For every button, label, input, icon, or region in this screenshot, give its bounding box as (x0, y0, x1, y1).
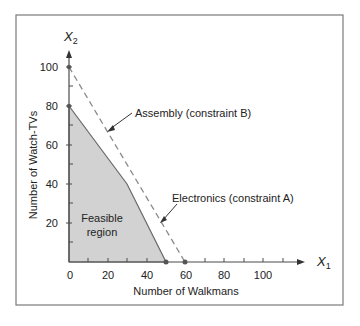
y-axis-title: Number of Watch-TVs (27, 110, 39, 219)
svg-text:60: 60 (46, 139, 58, 151)
svg-text:80: 80 (218, 269, 230, 281)
svg-text:40: 40 (141, 269, 153, 281)
chart-figure: 20 40 60 80 100 0 20 40 60 80 100 Number… (0, 0, 360, 326)
y-axis-arrow-icon (66, 50, 72, 58)
svg-text:40: 40 (46, 178, 58, 190)
x-variable-label: X1 (316, 254, 331, 271)
svg-text:100: 100 (40, 61, 58, 73)
svg-text:0: 0 (67, 269, 73, 281)
point-60-0 (183, 260, 188, 265)
y-tick-labels: 20 40 60 80 100 (40, 61, 58, 229)
electronics-label: Electronics (constraint A) (172, 192, 294, 204)
point-0-100 (67, 65, 71, 69)
x-axis-arrow-icon (297, 259, 305, 265)
feasible-label-line1: Feasible (81, 212, 123, 224)
feasible-region (69, 106, 166, 262)
svg-text:20: 20 (102, 269, 114, 281)
y-variable-label: X2 (63, 29, 78, 46)
point-0-80 (67, 104, 71, 108)
svg-text:20: 20 (46, 217, 58, 229)
svg-text:100: 100 (254, 269, 272, 281)
point-50-0 (164, 260, 169, 265)
svg-text:60: 60 (180, 269, 192, 281)
x-axis-title: Number of Walkmans (133, 285, 239, 297)
x-tick-labels: 0 20 40 60 80 100 (67, 269, 272, 281)
feasible-label-line2: region (87, 226, 118, 238)
assembly-label: Assembly (constraint B) (135, 107, 251, 119)
svg-text:80: 80 (46, 100, 58, 112)
